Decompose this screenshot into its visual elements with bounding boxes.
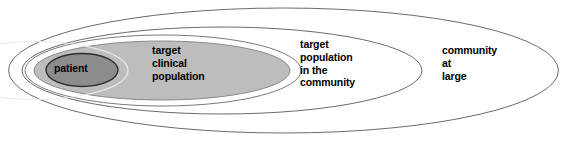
label-target-clinical-population: target clinical population <box>152 44 205 82</box>
label-patient: patient <box>54 62 88 75</box>
label-target-population-in-the-community: target population in the community <box>300 38 355 89</box>
nested-ellipse-diagram: patient target clinical population targe… <box>0 0 567 141</box>
label-community-at-large: community at large <box>442 44 497 82</box>
